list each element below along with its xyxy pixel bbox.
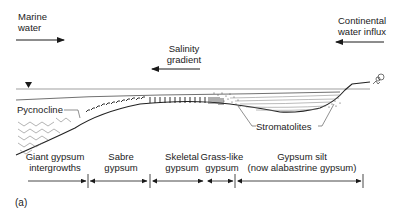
stromatolites-leader-left (238, 106, 256, 126)
zone-1-line1: Sabre (96, 151, 146, 162)
marine-water-line1: Marine (18, 11, 47, 22)
marine-water-label: Marine water (18, 11, 47, 33)
zone-label-giant-gypsum: Giant gypsum intergrowths (22, 151, 88, 173)
zone-1-line2: gypsum (96, 162, 146, 173)
pycnocline-leader (64, 110, 80, 118)
water-level-triangle-icon (25, 82, 32, 88)
zone-4-line2: (now alabastrine gypsum) (246, 162, 358, 173)
marine-water-line2: water (18, 22, 47, 33)
figure-label: (a) (15, 197, 27, 208)
zone-label-grass-like-gypsum: Grass-like gypsum (199, 151, 245, 173)
pycnocline-label: Pycnocline (17, 104, 63, 115)
basin-floor (16, 82, 370, 155)
gypsum-silt-laminae (230, 95, 340, 110)
stromatolites-label: Stromatolites (256, 121, 311, 132)
zone-3-line1: Grass-like (199, 151, 245, 162)
continental-influx-line2: water influx (338, 26, 386, 37)
salinity-gradient-label: Salinity gradient (160, 43, 208, 65)
pycnocline-line (16, 92, 340, 100)
grass-like-gypsum-crystals (209, 97, 223, 105)
zone-4-line1: Gypsum silt (246, 151, 358, 162)
continental-influx-line1: Continental (338, 15, 386, 26)
salinity-gradient-line1: Salinity (160, 43, 208, 54)
zone-label-sabre-gypsum: Sabre gypsum (96, 151, 146, 173)
zone-3-line2: gypsum (199, 162, 245, 173)
continental-influx-label: Continental water influx (338, 15, 386, 37)
giant-gypsum-hatch (18, 118, 71, 154)
zone-0-line1: Giant gypsum (22, 151, 88, 162)
zone-0-line2: intergrowths (22, 162, 88, 173)
zone-label-gypsum-silt: Gypsum silt (now alabastrine gypsum) (246, 151, 358, 173)
salinity-gradient-line2: gradient (160, 54, 208, 65)
zone-scale-bar (28, 174, 363, 188)
shore-vegetation-icon (373, 74, 384, 84)
